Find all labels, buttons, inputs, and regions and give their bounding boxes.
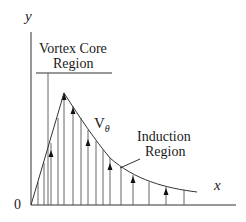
induction-region-label-line1: Induction xyxy=(137,129,191,144)
v-theta-label: Vθ xyxy=(94,115,110,134)
vortex-core-region-label-line1: Vortex Core xyxy=(39,41,107,56)
x-axis-label: x xyxy=(213,177,221,193)
origin-label: 0 xyxy=(14,197,21,212)
y-axis-label: y xyxy=(23,8,32,24)
arrowhead-icon xyxy=(108,163,113,170)
vortex-velocity-diagram: y x 0 Vortex Core Region Vθ xyxy=(0,0,246,222)
vortex-core-region-label-line2: Region xyxy=(53,56,93,71)
induction-leader-line xyxy=(120,159,140,168)
arrowhead-icon xyxy=(71,107,76,114)
induction-region-label-line2: Region xyxy=(145,144,185,159)
arrowhead-icon xyxy=(49,150,54,157)
arrowhead-icon xyxy=(86,139,91,146)
arrowhead-icon xyxy=(164,188,169,195)
arrowhead-icon xyxy=(131,176,136,183)
